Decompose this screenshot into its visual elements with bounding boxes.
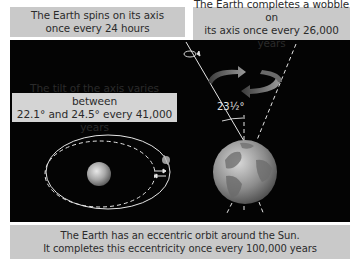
spin-label-line-2: once every 24 hours bbox=[10, 22, 185, 35]
earth-globe-icon bbox=[213, 140, 277, 204]
tilt-label: The tilt of the axis varies between 22.1… bbox=[12, 93, 177, 122]
wobble-label-line-1: The Earth completes a wobble on bbox=[193, 0, 350, 24]
spin-label: The Earth spins on its axis once every 2… bbox=[10, 7, 185, 37]
eccentricity-label-line-2: It completes this eccentricity once ever… bbox=[10, 242, 350, 255]
precession-arrows-icon bbox=[208, 66, 282, 98]
sun-icon bbox=[87, 162, 111, 186]
tilt-label-line-2: 22.1° and 24.5° every 41,000 years bbox=[12, 108, 177, 134]
spin-label-line-1: The Earth spins on its axis bbox=[10, 9, 185, 22]
wobble-label-line-2: its axis once every 26,000 years bbox=[193, 24, 350, 50]
shift-arrows-icon bbox=[154, 169, 166, 178]
eccentricity-label: The Earth has an eccentric orbit around … bbox=[10, 225, 350, 259]
tilt-label-line-1: The tilt of the axis varies between bbox=[12, 82, 177, 108]
axial-tilt-angle: 23½° bbox=[217, 101, 244, 112]
wobble-label: The Earth completes a wobble on its axis… bbox=[193, 7, 350, 40]
tilted-axis-line bbox=[186, 42, 251, 153]
eccentricity-label-line-1: The Earth has an eccentric orbit around … bbox=[10, 229, 350, 242]
